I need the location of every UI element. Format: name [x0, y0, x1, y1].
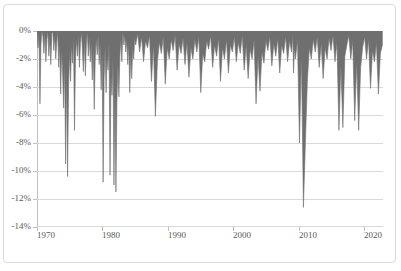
- x-axis-label-0: 1970: [37, 230, 55, 240]
- x-axis-label-3: 2000: [233, 230, 251, 240]
- x-axis-labels: 1970 1980 1990 2000 2010 2020: [0, 230, 401, 246]
- x-axis-label-2: 1990: [168, 230, 186, 240]
- x-axis-label-4: 2010: [299, 230, 317, 240]
- y-axis-label-2: -4%: [1, 82, 31, 91]
- x-axis-label-5: 2020: [364, 230, 382, 240]
- y-axis-label-6: -12%: [1, 194, 31, 203]
- y-axis-label-1: -2%: [1, 54, 31, 63]
- x-axis-label-1: 1980: [102, 230, 120, 240]
- y-axis-label-5: -10%: [1, 166, 31, 175]
- y-axis-label-4: -8%: [1, 138, 31, 147]
- y-axis-label-3: -6%: [1, 110, 31, 119]
- drawdown-chart: 0% -2% -4% -6% -8% -10% -12% -14% 197: [0, 0, 401, 271]
- y-axis-label-0: 0%: [1, 26, 31, 35]
- plot-area: [37, 31, 383, 227]
- drawdown-series: [37, 31, 383, 227]
